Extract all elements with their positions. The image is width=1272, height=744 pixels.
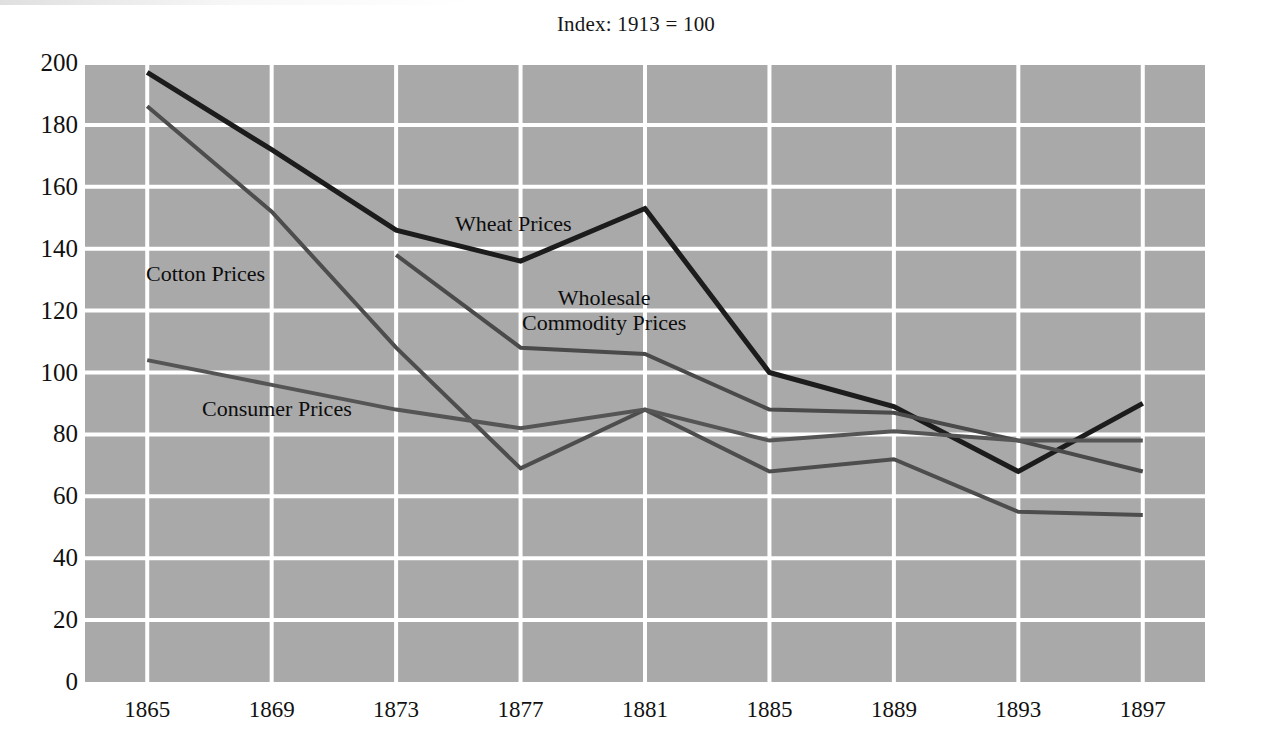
x-tick-label: 1885 bbox=[714, 698, 824, 721]
x-tick-label: 1869 bbox=[217, 698, 327, 721]
x-tick-label: 1865 bbox=[92, 698, 202, 721]
x-axis-ticks: 186518691873187718811885188918931897 bbox=[0, 0, 1272, 744]
x-tick-label: 1893 bbox=[963, 698, 1073, 721]
series-annotation-2: Wholesale Commodity Prices bbox=[522, 286, 686, 335]
x-tick-label: 1897 bbox=[1088, 698, 1198, 721]
series-annotation-1: Cotton Prices bbox=[146, 262, 265, 287]
chart-figure: Index: 1913 = 100 0204060801001201401601… bbox=[0, 0, 1272, 744]
series-annotation-0: Wheat Prices bbox=[455, 212, 572, 237]
x-tick-label: 1877 bbox=[466, 698, 576, 721]
x-tick-label: 1881 bbox=[590, 698, 700, 721]
series-annotation-3: Consumer Prices bbox=[202, 397, 352, 422]
x-tick-label: 1889 bbox=[839, 698, 949, 721]
x-tick-label: 1873 bbox=[341, 698, 451, 721]
